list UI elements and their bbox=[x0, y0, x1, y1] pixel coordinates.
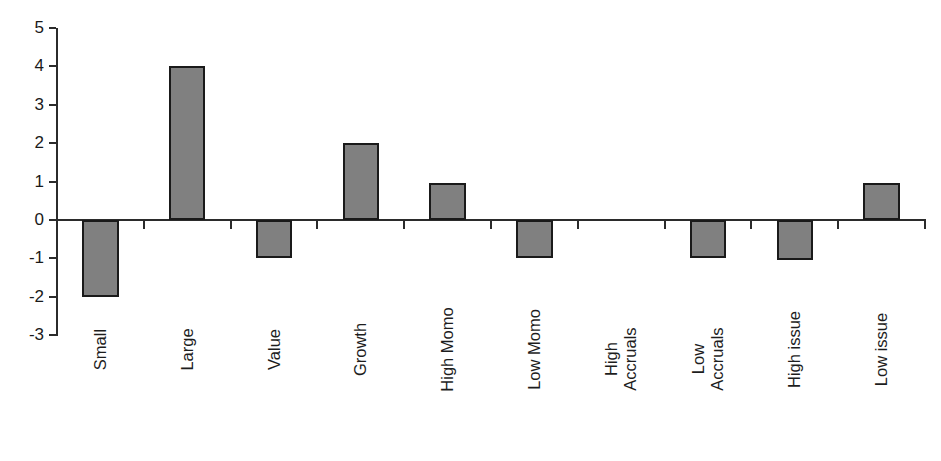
category-label: High Momo bbox=[404, 340, 491, 458]
category-label-text: Large bbox=[178, 328, 197, 370]
y-axis-tick-label: -2 bbox=[0, 288, 44, 305]
category-label: Large bbox=[144, 340, 231, 458]
y-axis-tick bbox=[49, 142, 56, 144]
y-axis-tick-label: 0 bbox=[0, 211, 44, 228]
bar bbox=[82, 220, 118, 297]
category-label: Low issue bbox=[838, 340, 925, 458]
category-label-text: Growth bbox=[351, 323, 370, 376]
y-axis-tick-label: -1 bbox=[0, 249, 44, 266]
y-axis-tick bbox=[49, 296, 56, 298]
bar bbox=[516, 220, 552, 258]
bar bbox=[777, 220, 813, 260]
bar-chart: 543210-1-2-3 SmallLargeValueGrowthHigh M… bbox=[0, 0, 941, 461]
category-label: LowAccruals bbox=[665, 340, 752, 458]
category-label: Small bbox=[57, 340, 144, 458]
category-label: HighAccruals bbox=[578, 340, 665, 458]
y-axis-tick-label: 1 bbox=[0, 173, 44, 190]
y-axis-tick bbox=[49, 181, 56, 183]
bar bbox=[429, 183, 465, 219]
bar bbox=[343, 143, 379, 220]
bar bbox=[690, 220, 726, 258]
y-axis-tick bbox=[49, 27, 56, 29]
category-label-text: Small bbox=[91, 329, 110, 370]
category-label: High issue bbox=[751, 340, 838, 458]
y-axis-tick-label: 5 bbox=[0, 19, 44, 36]
y-axis-tick bbox=[49, 104, 56, 106]
y-axis-tick-label: 3 bbox=[0, 96, 44, 113]
category-label-text: High Momo bbox=[438, 307, 457, 391]
bar bbox=[256, 220, 292, 258]
y-axis-tick bbox=[49, 257, 56, 259]
category-label: Value bbox=[231, 340, 318, 458]
category-label-text: HighAccruals bbox=[602, 316, 640, 403]
bars-layer bbox=[57, 28, 925, 335]
category-labels: SmallLargeValueGrowthHigh MomoLow MomoHi… bbox=[57, 340, 926, 461]
y-axis-tick bbox=[49, 219, 56, 221]
bar bbox=[863, 183, 899, 219]
bar bbox=[169, 66, 205, 220]
category-label-text: Low Momo bbox=[525, 309, 544, 390]
category-label: Growth bbox=[317, 340, 404, 458]
category-label-text: Low issue bbox=[872, 313, 891, 386]
category-label: Low Momo bbox=[491, 340, 578, 458]
y-axis-tick bbox=[49, 65, 56, 67]
y-axis-tick bbox=[49, 334, 56, 336]
y-axis-tick-label: 4 bbox=[0, 57, 44, 74]
y-axis-tick-label: -3 bbox=[0, 326, 44, 343]
category-label-text: Value bbox=[264, 329, 283, 370]
category-label-text: LowAccruals bbox=[689, 316, 727, 403]
category-label-text: High issue bbox=[785, 311, 804, 388]
y-axis-tick-label: 2 bbox=[0, 134, 44, 151]
